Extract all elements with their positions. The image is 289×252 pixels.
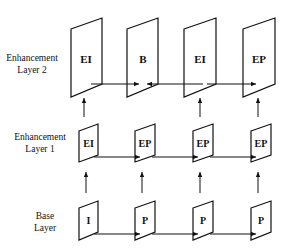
svg-text:Enhancement: Enhancement <box>6 53 58 63</box>
frame-label: EI <box>80 53 92 65</box>
scalability-diagram: Enhancement Layer 2 Enhancement Layer 1 … <box>0 0 289 252</box>
layer-label-enhancement-1: Enhancement Layer 1 <box>14 132 66 154</box>
enhancement-layer-1-frames: EI EP EP EP <box>79 124 271 162</box>
frame-label: I <box>87 215 91 226</box>
frame-label: P <box>142 215 148 226</box>
frame-label: EP <box>197 138 210 149</box>
svg-text:Layer 1: Layer 1 <box>25 144 55 154</box>
frame-label: EI <box>83 138 94 149</box>
frame-label: EI <box>194 53 206 65</box>
layer-label-enhancement-2: Enhancement Layer 2 <box>6 53 58 75</box>
enhancement-layer-2-frames: EI B EI EP <box>71 18 275 97</box>
svg-text:Base: Base <box>36 211 54 221</box>
frame-label: EP <box>255 138 268 149</box>
frame-label: P <box>200 215 206 226</box>
frame-label: EP <box>252 53 266 65</box>
frame-label: P <box>258 215 264 226</box>
frame-label: B <box>139 53 147 65</box>
frame-label: EP <box>139 138 152 149</box>
layer-label-base: Base Layer <box>34 211 57 233</box>
svg-text:Layer: Layer <box>34 223 57 233</box>
svg-text:Layer 2: Layer 2 <box>17 65 47 75</box>
svg-text:Enhancement: Enhancement <box>14 132 66 142</box>
